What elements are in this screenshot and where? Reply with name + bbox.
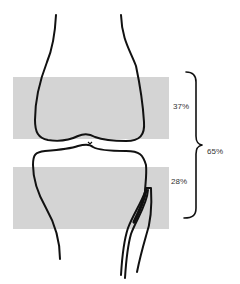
- femur-percent-label: 37%: [173, 102, 189, 111]
- curly-brace: [184, 72, 202, 218]
- tibia-percent-label: 28%: [171, 177, 187, 186]
- knee-diagram: [0, 0, 240, 284]
- total-percent-label: 65%: [207, 147, 223, 156]
- joint-notch: [88, 142, 92, 144]
